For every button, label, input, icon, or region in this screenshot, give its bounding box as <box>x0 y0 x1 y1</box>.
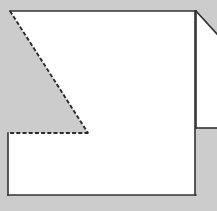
geometric-shape-diagram <box>0 0 217 211</box>
diagram-canvas <box>0 0 217 211</box>
